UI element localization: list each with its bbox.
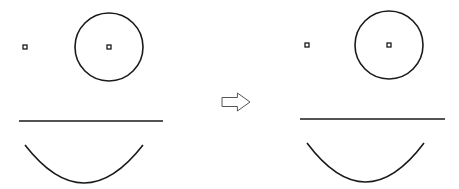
point-marker bbox=[23, 45, 27, 49]
point-marker bbox=[305, 43, 309, 47]
after-figure bbox=[300, 11, 445, 182]
circle-center-marker bbox=[387, 43, 391, 47]
before-figure bbox=[19, 13, 163, 183]
arc-shape bbox=[307, 143, 424, 182]
transform-arrow-icon bbox=[222, 93, 250, 111]
circle-center-marker bbox=[107, 45, 111, 49]
circle-shape bbox=[75, 13, 143, 81]
arc-shape bbox=[25, 145, 143, 183]
arrow-outline bbox=[222, 93, 250, 111]
diagram-canvas bbox=[0, 0, 459, 189]
circle-shape bbox=[355, 11, 423, 79]
